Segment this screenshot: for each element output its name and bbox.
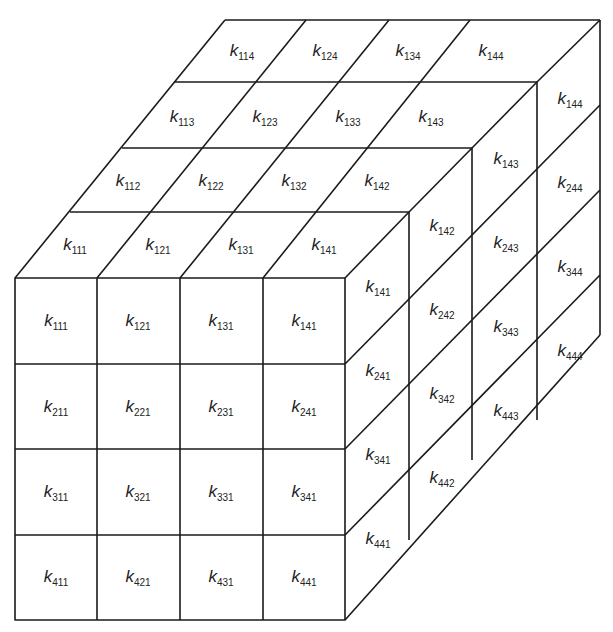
right-cell-label: k241 xyxy=(365,362,390,382)
front-cell-label: k441 xyxy=(291,568,316,588)
front-cell-label: k341 xyxy=(291,483,316,503)
top-cell-label: k111 xyxy=(63,236,87,256)
front-cell-label: k331 xyxy=(208,483,233,503)
right-cell-label: k344 xyxy=(557,258,582,278)
right-cell-label: k443 xyxy=(493,402,518,422)
front-cell-label: k111 xyxy=(44,312,68,332)
top-cell-label: k122 xyxy=(198,172,223,192)
front-cell-label: k431 xyxy=(208,568,233,588)
top-cell-label: k133 xyxy=(335,108,360,128)
right-cell-label: k342 xyxy=(429,385,454,405)
top-cell-label: k121 xyxy=(145,236,170,256)
top-cell-label: k132 xyxy=(281,172,306,192)
right-cell-label: k343 xyxy=(493,318,518,338)
top-cell-label: k134 xyxy=(395,42,420,62)
front-cell-label: k221 xyxy=(125,398,150,418)
right-cell-label: k341 xyxy=(365,446,390,466)
front-cell-label: k421 xyxy=(125,568,150,588)
top-cell-label: k113 xyxy=(170,108,194,128)
top-cell-label: k112 xyxy=(116,172,140,192)
right-cell-label: k244 xyxy=(557,174,582,194)
front-cell-label: k241 xyxy=(291,398,316,418)
right-cell-label: k144 xyxy=(557,90,582,110)
top-cell-label: k141 xyxy=(311,236,336,256)
right-cell-label: k242 xyxy=(429,301,454,321)
front-cell-label: k211 xyxy=(44,398,68,418)
right-cell-label: k141 xyxy=(365,278,390,298)
front-cell-label: k411 xyxy=(44,568,68,588)
right-cell-label: k143 xyxy=(493,150,518,170)
top-cell-label: k142 xyxy=(364,172,389,192)
right-cell-label: k142 xyxy=(429,217,454,237)
top-cell-label: k114 xyxy=(230,42,254,62)
top-cell-label: k144 xyxy=(478,42,503,62)
front-cell-label: k321 xyxy=(125,483,150,503)
right-cell-label: k441 xyxy=(365,530,390,550)
front-cell-label: k311 xyxy=(44,483,68,503)
front-cell-label: k231 xyxy=(208,398,233,418)
top-cell-label: k131 xyxy=(228,236,253,256)
front-cell-label: k121 xyxy=(125,312,150,332)
top-cell-label: k124 xyxy=(312,42,337,62)
right-cell-label: k444 xyxy=(557,342,582,362)
right-cell-label: k243 xyxy=(493,234,518,254)
front-cell-label: k131 xyxy=(208,312,233,332)
right-cell-label: k442 xyxy=(429,469,454,489)
top-cell-label: k143 xyxy=(418,108,443,128)
top-cell-label: k123 xyxy=(252,108,277,128)
front-cell-label: k141 xyxy=(291,312,316,332)
